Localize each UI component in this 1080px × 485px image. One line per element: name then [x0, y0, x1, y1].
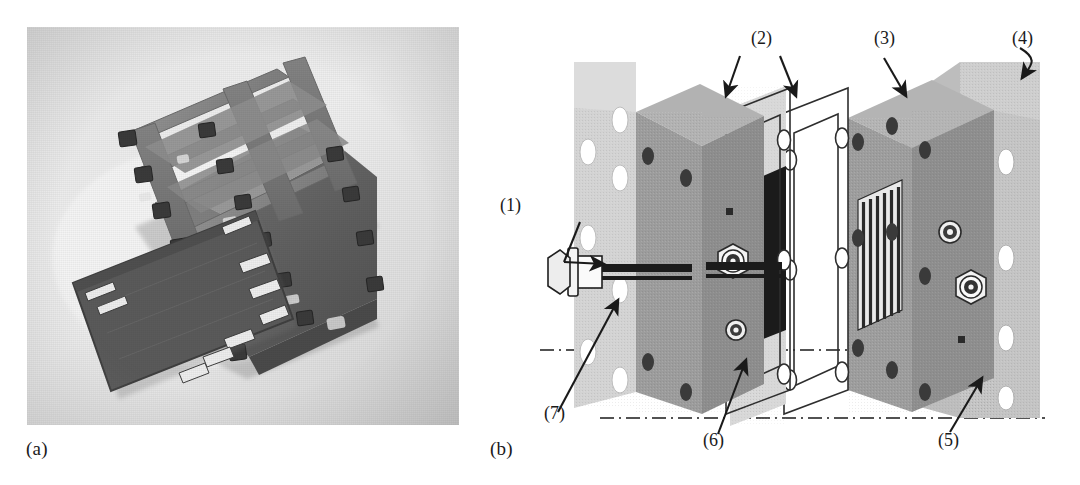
exploded-fuel-cell-diagram	[540, 0, 1080, 485]
fuel-cell-stack-photo	[27, 27, 459, 425]
callout-label-4: (4)	[1012, 28, 1033, 49]
callout-label-5: (5)	[938, 430, 959, 451]
photo-vignette	[27, 27, 459, 425]
callout-label-7: (7)	[544, 403, 565, 424]
panel-b-caption: (b)	[490, 438, 513, 460]
threaded-rod-segment-1	[592, 264, 692, 272]
callout-arrow-3	[884, 58, 906, 96]
left-plate-port-small	[726, 320, 746, 340]
threaded-rod-segment-2	[706, 262, 782, 270]
right-plate-port-small	[939, 221, 961, 243]
left-end-plate	[574, 62, 636, 408]
callout-label-2: (2)	[751, 28, 772, 49]
right-plate-marking	[958, 336, 965, 343]
callout-label-1: (1)	[500, 195, 521, 216]
threaded-rod-shadow-2	[706, 274, 782, 278]
panel-a-caption: (a)	[26, 438, 48, 460]
panel-b-diagram: (1) (2) (3) (4) (5) (6) (7) (b)	[540, 0, 1080, 485]
left-plate-hex-fitting	[718, 244, 748, 278]
panel-a-photograph: (a)	[0, 0, 540, 485]
insulating-sleeve	[576, 256, 602, 288]
left-plate-marking	[726, 208, 733, 215]
right-bipolar-plate	[848, 80, 994, 412]
right-plate-hex-fitting	[956, 270, 986, 304]
gasket-frame-2	[784, 88, 849, 414]
flow-field-channels	[858, 180, 902, 330]
callout-label-6: (6)	[703, 430, 724, 451]
callout-label-3: (3)	[874, 28, 895, 49]
threaded-rod-shadow-1	[592, 276, 692, 280]
